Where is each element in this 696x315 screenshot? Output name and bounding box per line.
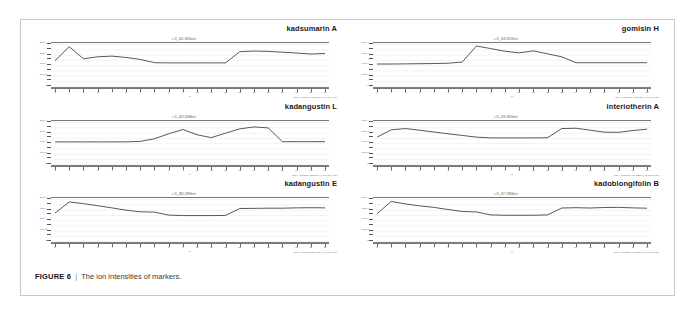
- y-tick-label: 5.0e 3: [40, 229, 47, 231]
- chart-title-kadsumarin-a: kadsumarin A: [286, 24, 337, 33]
- x-tick-label: 4: [111, 92, 112, 94]
- chart-header-kadangustin-e: c.f1_382.1989m/z: [172, 192, 196, 196]
- x-axis-caption: h: [511, 250, 512, 253]
- x-tick-label: 1: [69, 92, 70, 94]
- y-tick-label: 2.0e 4: [362, 120, 369, 122]
- x-tick-label: 3: [419, 170, 420, 172]
- x-tick-label: 0: [54, 92, 55, 94]
- x-axis-caption: h: [189, 173, 190, 176]
- x-tick-label: 4: [111, 170, 112, 172]
- x-tick-label: 12: [224, 170, 227, 172]
- chart-footer-kadangustin-e: MS(+) extracted 382.1989 @ 9.3-11.7 min: [293, 251, 337, 253]
- y-tick: 5.0e 3: [40, 152, 51, 154]
- x-tick-label: 5: [125, 170, 126, 172]
- y-tick: 2.0e 4: [362, 197, 373, 199]
- x-tick-label: 9: [182, 170, 183, 172]
- x-tick-label: 0: [376, 247, 377, 249]
- x-tick-label: 18: [631, 92, 634, 94]
- x-axis-line: [51, 166, 329, 167]
- x-axis-kadangustin-l: 012345678910111213141516171819h: [51, 166, 329, 175]
- y-tick: 5.0e 3: [362, 74, 373, 76]
- y-tick: 1.5e 4: [362, 131, 373, 133]
- y-tick-label: 1.0e 4: [40, 141, 47, 143]
- y-tick: 1.0e 4: [40, 218, 51, 220]
- x-tick-label: 11: [532, 170, 534, 172]
- x-tick-label: 10: [196, 247, 199, 249]
- y-tick-label: 2.0e 4: [362, 42, 369, 44]
- y-tick: 1.5e 4: [40, 131, 51, 133]
- y-axis-kadsumarin-a: 2.0e 41.5e 41.0e 45.0e 30: [29, 42, 51, 88]
- x-tick-label: 6: [462, 170, 463, 172]
- x-axis-kadangustin-e: 012345678910111213141516171819h: [51, 243, 329, 252]
- x-tick-label: 0: [54, 247, 55, 249]
- figure-caption-label: FIGURE 6: [35, 272, 71, 281]
- x-tick-label: 17: [295, 247, 298, 249]
- x-tick-label: 14: [253, 170, 256, 172]
- x-tick-label: 19: [646, 170, 649, 172]
- y-tick-label: 1.0e 4: [40, 218, 47, 220]
- x-tick-label: 3: [419, 247, 420, 249]
- plot-svg-kadangustin-e: [51, 198, 329, 244]
- x-tick-label: 7: [154, 92, 155, 94]
- x-tick-label: 16: [281, 170, 284, 172]
- x-axis-caption: h: [189, 250, 190, 253]
- y-tick: 2.0e 4: [40, 42, 51, 44]
- chart-kadoblongifolin-b: kadoblongifolin Bc.f1_417.1884m/z2.0e 41…: [351, 181, 661, 257]
- x-tick-label: 13: [238, 247, 241, 249]
- y-tick-label: 5.0e 3: [362, 74, 369, 76]
- x-tick-label: 7: [476, 92, 477, 94]
- x-tick-label: 8: [490, 92, 491, 94]
- data-series-line: [55, 127, 325, 142]
- x-tick-label: 11: [532, 247, 534, 249]
- y-tick: 2.0e 4: [362, 42, 373, 44]
- x-tick-label: 16: [281, 247, 284, 249]
- x-axis-line: [373, 243, 651, 244]
- x-tick-label: 16: [281, 92, 284, 94]
- x-tick-label: 13: [560, 170, 563, 172]
- y-tick-label: 2.0e 4: [40, 120, 47, 122]
- chart-kadangustin-e: kadangustin Ec.f1_382.1989m/z2.0e 41.5e …: [29, 181, 339, 257]
- chart-title-gomisin-h: gomisin H: [622, 24, 659, 33]
- x-tick-label: 3: [419, 92, 420, 94]
- x-tick-label: 0: [376, 170, 377, 172]
- x-tick-label: 8: [490, 247, 491, 249]
- plot-area-kadoblongifolin-b: [373, 197, 651, 243]
- x-tick-label: 18: [631, 247, 634, 249]
- x-tick-label: 2: [405, 247, 406, 249]
- x-tick-label: 3: [97, 247, 98, 249]
- x-tick-label: 18: [631, 170, 634, 172]
- y-tick: 1.5e 4: [362, 53, 373, 55]
- x-tick-label: 12: [546, 92, 549, 94]
- plot-svg-gomisin-h: [373, 43, 651, 89]
- chart-title-kadangustin-l: kadangustin L: [285, 102, 337, 111]
- x-tick-label: 14: [575, 170, 578, 172]
- chart-footer-kadangustin-l: MS(+) extracted 432.2068 @ 10.1-12.4 min: [292, 174, 337, 176]
- x-tick-label: 15: [267, 170, 270, 172]
- x-tick-label: 2: [83, 170, 84, 172]
- x-tick-label: 18: [309, 92, 312, 94]
- y-tick-label: 2.0e 4: [40, 42, 47, 44]
- x-tick-label: 13: [238, 170, 241, 172]
- y-axis-gomisin-h: 2.0e 41.5e 41.0e 45.0e 30: [351, 42, 373, 88]
- plot-svg-kadangustin-l: [51, 121, 329, 167]
- figure-caption: FIGURE 6 | The ion intensities of marker…: [35, 272, 655, 282]
- x-tick-label: 8: [490, 170, 491, 172]
- x-tick-label: 5: [447, 170, 448, 172]
- y-tick: 2.0e 4: [40, 197, 51, 199]
- x-axis-interiotherin-a: 012345678910111213141516171819h: [373, 166, 651, 175]
- plot-svg-kadoblongifolin-b: [373, 198, 651, 244]
- y-tick: 5.0e 3: [362, 152, 373, 154]
- x-tick-label: 17: [617, 92, 620, 94]
- chart-header-kadoblongifolin-b: c.f1_417.1884m/z: [494, 192, 518, 196]
- plot-svg-kadsumarin-a: [51, 43, 329, 89]
- x-tick-label: 9: [504, 170, 505, 172]
- x-tick-label: 12: [546, 247, 549, 249]
- x-tick-label: 5: [447, 247, 448, 249]
- x-tick-label: 6: [462, 247, 463, 249]
- y-axis-kadangustin-e: 2.0e 41.5e 41.0e 45.0e 30: [29, 197, 51, 243]
- x-tick-label: 14: [575, 92, 578, 94]
- chart-kadangustin-l: kadangustin Lc.f1_432.2068m/z2.0e 41.5e …: [29, 104, 339, 180]
- x-tick-label: 1: [69, 170, 70, 172]
- chart-footer-gomisin-h: MS(+) extracted 418.2037 @ 8.4-10.2 min: [615, 96, 659, 98]
- chart-title-kadangustin-e: kadangustin E: [284, 179, 337, 188]
